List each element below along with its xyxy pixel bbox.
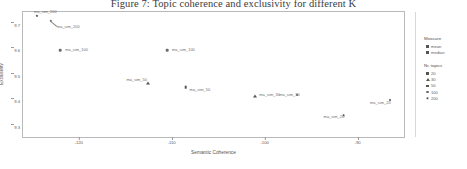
legend-marker-square [424, 45, 431, 48]
y-tick-mark [11, 98, 14, 99]
legend-marker-square [424, 72, 431, 75]
point-label: ma_sim_30 [259, 92, 280, 97]
legend-divider [415, 12, 416, 137]
y-axis-tick: 9.3 [14, 124, 23, 129]
legend-item-label: 20 [431, 71, 436, 76]
legend-item-label: 50 [431, 83, 436, 88]
x-tick-mark [172, 137, 173, 140]
legend-marker-triangle [424, 78, 431, 81]
legend-topics-title: Nr. topics [424, 63, 467, 68]
legend-item-label: 100 [431, 90, 438, 95]
legend-measure-items: meanmedian [424, 44, 467, 56]
legend-spacer [424, 56, 467, 63]
point-label: ma_sim_20 [370, 100, 391, 105]
x-axis-tick: -100 [260, 137, 268, 145]
point-marker-circle [59, 49, 62, 52]
x-axis-tick: -120 [75, 137, 83, 145]
legend-item-label: 200 [431, 96, 438, 101]
point-marker-square [184, 86, 187, 89]
plot-canvas: 9.79.69.59.49.3-120-110-100-90ma_sim_200… [23, 12, 404, 137]
legend-item-label: 30 [431, 77, 436, 82]
point-label: ma_sim_50 [190, 87, 211, 92]
point-label: ma_sim_100 [172, 47, 195, 52]
y-axis-tick: 9.7 [14, 22, 23, 27]
point-marker-triangle [146, 82, 150, 85]
legend-glyph [426, 72, 429, 75]
x-tick-mark [79, 137, 80, 140]
y-tick-mark [11, 73, 14, 74]
point-label: ma_sim_30 [279, 92, 300, 97]
y-tick-mark [11, 124, 14, 125]
x-axis-label: Semantic Coherence [22, 150, 405, 155]
plot-area: 9.79.69.59.49.3-120-110-100-90ma_sim_200… [22, 11, 405, 138]
point-label: ma_sim_20 [324, 114, 345, 119]
legend-measure-title: Measure [424, 36, 467, 41]
point-marker-triangle [253, 95, 257, 98]
legend-glyph [426, 78, 430, 81]
point-label: ma_sim_200 [57, 24, 80, 29]
legend-marker-square [424, 51, 431, 54]
x-axis-tick: -90 [355, 137, 361, 145]
legend-item[interactable]: 200 [424, 95, 467, 101]
y-axis-tick: 9.6 [14, 48, 23, 53]
legend-marker-circle [424, 91, 431, 94]
y-tick-mark [11, 22, 14, 23]
x-axis-tick: -110 [168, 137, 176, 145]
legend-item-label: median [431, 50, 444, 55]
legend-glyph [426, 85, 429, 88]
x-tick-mark [358, 137, 359, 140]
legend-marker-star [424, 97, 431, 100]
legend-topics-items: 203050100200 [424, 70, 467, 101]
legend-glyph [426, 91, 429, 94]
point-label: ma_sim_200 [34, 9, 57, 14]
point-marker-star [35, 14, 38, 17]
legend-item-label: mean [431, 44, 441, 49]
legend-glyph [426, 45, 429, 48]
point-marker-circle [166, 49, 169, 52]
x-tick-mark [265, 137, 266, 140]
legend-glyph [426, 97, 429, 100]
label-leader-line [50, 21, 57, 27]
legend: Measure meanmedian Nr. topics 2030501002… [424, 36, 467, 101]
legend-marker-square [424, 85, 431, 88]
y-axis-label: Exclusivity [0, 44, 4, 104]
point-label: ma_sim_100 [65, 47, 88, 52]
point-label: ma_sim_50 [126, 77, 147, 82]
figure-title: Figure 7: Topic coherence and exclusivit… [0, 0, 467, 9]
y-tick-mark [11, 47, 14, 48]
y-axis-tick: 9.4 [14, 99, 23, 104]
y-axis-tick: 9.5 [14, 73, 23, 78]
legend-glyph [426, 51, 429, 54]
